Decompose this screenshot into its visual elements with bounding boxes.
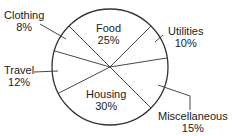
- label-clothing-pct: 8%: [4, 21, 44, 33]
- label-utilities-name: Utilities: [168, 25, 203, 37]
- label-food: Food 25%: [96, 22, 121, 46]
- label-food-name: Food: [96, 22, 121, 34]
- label-housing-name: Housing: [86, 88, 126, 100]
- leader-line-travel: [34, 71, 58, 72]
- label-housing: Housing 30%: [86, 88, 126, 112]
- label-food-pct: 25%: [96, 34, 121, 46]
- label-utilities-pct: 10%: [168, 37, 203, 49]
- label-miscellaneous: Miscellaneous 15%: [158, 110, 228, 134]
- label-misc-name: Miscellaneous: [158, 110, 228, 122]
- label-travel-pct: 12%: [4, 76, 34, 88]
- label-utilities: Utilities 10%: [168, 25, 203, 49]
- label-misc-pct: 15%: [158, 122, 228, 134]
- slice-divider-miscellaneous: [110, 58, 167, 67]
- label-travel-name: Travel: [4, 64, 34, 76]
- label-clothing-name: Clothing: [4, 9, 44, 21]
- label-housing-pct: 30%: [86, 100, 126, 112]
- label-clothing: Clothing 8%: [4, 9, 44, 33]
- label-travel: Travel 12%: [4, 64, 34, 88]
- leader-line-misc: [158, 85, 190, 110]
